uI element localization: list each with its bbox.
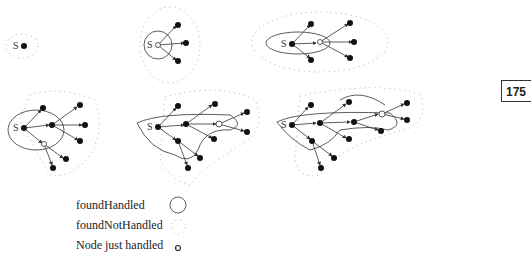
legend-item-found-not-handled: foundNotHandled: [76, 216, 163, 236]
panel-5: [137, 90, 259, 185]
source-label-4: S: [13, 122, 19, 133]
legend-open-node-icon: [176, 246, 181, 251]
legend-item-found-handled: foundHandled: [76, 196, 163, 216]
legend-dotted-circle-icon: [171, 220, 185, 234]
source-label-1: S: [13, 40, 19, 51]
source-label-6: S: [281, 119, 287, 130]
panel-3: [252, 12, 388, 72]
page-number: 175: [501, 80, 531, 102]
legend-solid-circle-icon: [170, 197, 186, 213]
legend: foundHandled foundNotHandled Node just h…: [76, 196, 163, 256]
source-label-3: S: [281, 38, 287, 49]
panel-6: [277, 88, 423, 176]
source-label-2: S: [147, 39, 153, 50]
source-label-5: S: [147, 121, 153, 132]
panel-4: [8, 91, 99, 176]
panel-1: [6, 34, 38, 58]
legend-item-node-just-handled: Node just handled: [76, 236, 163, 256]
